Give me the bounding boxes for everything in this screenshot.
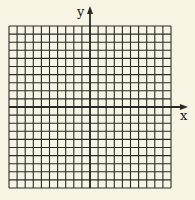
coordinate-grid [0,0,195,200]
y-axis-arrow-icon [87,6,93,14]
x-axis-label: x [180,109,187,122]
y-axis-label: y [77,5,84,18]
